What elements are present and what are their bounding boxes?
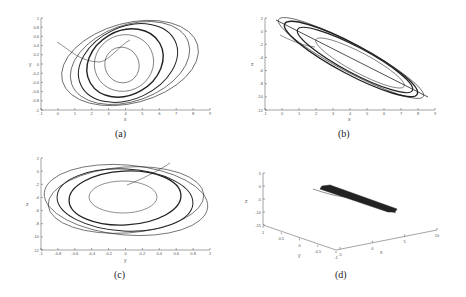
x-axis-label: x	[380, 249, 383, 255]
tick-label: 0.5	[278, 236, 284, 241]
caption: (c)	[114, 269, 125, 281]
x-axis-label: x	[348, 116, 351, 122]
tick-label: 5	[404, 239, 407, 244]
caption: (b)	[338, 128, 350, 140]
x-tick-label: 7	[175, 111, 178, 116]
y-tick-label: -6	[35, 208, 39, 213]
x-tick-label: 1	[74, 111, 77, 116]
x-tick-label: 8	[417, 111, 420, 116]
y-tick-label: -6	[259, 68, 263, 73]
x-tick-label: -1	[39, 111, 43, 116]
y-axis-label: z	[26, 201, 29, 207]
y-tick-label: -8	[35, 221, 39, 226]
y-axis-label: z	[251, 61, 254, 67]
y-tick-label: -0.4	[32, 80, 40, 85]
z-axis-label: z	[245, 198, 248, 204]
y-tick-label: 2	[261, 16, 264, 21]
x-tick-label: -0.4	[88, 251, 96, 256]
y-tick-label: -4	[259, 55, 263, 60]
subplot-d: 50-5-10-15 10.50-0.5-1 -50510 z y x (d)	[245, 171, 440, 282]
subplot-c: 20-2-4-6-8-10-12 -1-0.8-0.6-0.4-0.200.20…	[26, 156, 212, 282]
x-axis-label: x	[124, 116, 127, 122]
y-tick-label: -10	[255, 210, 262, 215]
x-tick-label: 7	[400, 111, 403, 116]
x-tick-label: 0.4	[157, 251, 163, 256]
y-tick-label: -0.6	[32, 89, 40, 94]
x-tick-label: 0	[124, 251, 127, 256]
subplot-a: 10.80.60.40.20-0.2-0.4-0.6-0.8-1 -101234…	[29, 6, 212, 140]
x-tick-label: 0.6	[173, 251, 179, 256]
y-tick-label: -10	[257, 94, 264, 99]
x-tick-label: 1	[209, 251, 212, 256]
y-tick-label: 0	[259, 184, 262, 189]
y-tick-label: -0.8	[32, 98, 40, 103]
y-axis-label: y	[298, 252, 301, 258]
x-tick-label: 9	[209, 111, 212, 116]
y-tick-label: -8	[259, 81, 263, 86]
y-tick-label: 1	[37, 16, 40, 21]
y-tick-label: -2	[259, 42, 263, 47]
trajectory	[272, 7, 430, 109]
x-tick-label: 0.2	[140, 251, 146, 256]
y-tick-label: -2	[35, 182, 39, 187]
y-tick-label: -4	[35, 195, 39, 200]
subplot-b: 20-2-4-6-8-10-12 -10123456789 z x (b)	[251, 7, 437, 140]
tick-label: 10	[435, 233, 440, 238]
tick-label: 1	[262, 230, 265, 235]
tick-label: -0.5	[314, 249, 322, 254]
y-tick-label: 0.8	[33, 25, 39, 30]
x-axis	[336, 230, 437, 250]
y-tick-label: -15	[255, 223, 262, 228]
x-tick-label: 3	[107, 111, 110, 116]
x-tick-label: 5	[366, 111, 369, 116]
figure: 10.80.60.40.20-0.2-0.4-0.6-0.8-1 -101234…	[0, 0, 466, 297]
trajectory	[41, 158, 210, 242]
x-tick-label: 5	[141, 111, 144, 116]
x-tick-label: 9	[434, 111, 437, 116]
x-tick-label: -0.8	[54, 251, 62, 256]
y-tick-label: -0.2	[32, 71, 40, 76]
x-axis-label: y	[124, 257, 127, 263]
x-tick-label: 6	[158, 111, 161, 116]
x-tick-label: -1	[263, 111, 267, 116]
x-tick-label: 1	[298, 111, 301, 116]
trajectory	[52, 6, 208, 120]
trajectory	[313, 185, 397, 213]
caption: (d)	[335, 269, 347, 281]
tick-label: -5	[338, 252, 342, 257]
x-tick-label: 0.8	[190, 251, 196, 256]
x-tick-label: -0.2	[105, 251, 113, 256]
y-tick-label: 0	[37, 169, 40, 174]
x-tick-label: -0.6	[71, 251, 79, 256]
tick-label: 0	[371, 246, 374, 251]
y-tick-label: 0.6	[33, 34, 39, 39]
y-tick-label: 2	[37, 156, 40, 161]
y-tick-label: 0.2	[33, 52, 39, 57]
x-tick-label: 0	[57, 111, 60, 116]
y-axis-label: y	[29, 61, 32, 67]
y-tick-label: 0	[37, 62, 40, 67]
x-tick-label: 8	[192, 111, 195, 116]
caption: (a)	[115, 128, 126, 140]
x-tick-label: 0	[281, 111, 284, 116]
y-tick-label: -5	[257, 197, 261, 202]
x-tick-label: 3	[332, 111, 335, 116]
x-tick-label: 6	[383, 111, 386, 116]
y-tick-label: 5	[259, 171, 262, 176]
y-tick-label: 0	[261, 29, 264, 34]
tick-label: 0	[298, 243, 301, 248]
x-tick-label: 2	[315, 111, 318, 116]
y-tick-label: 0.4	[33, 43, 39, 48]
y-tick-label: -10	[33, 234, 40, 239]
x-tick-label: -1	[39, 251, 43, 256]
x-tick-label: 2	[91, 111, 94, 116]
